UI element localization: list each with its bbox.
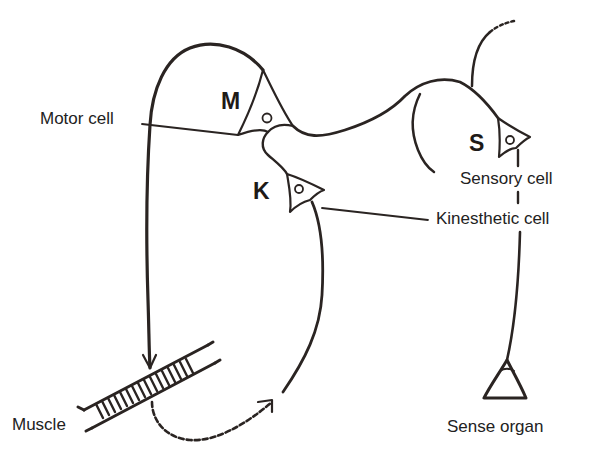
motor-cell-label: Motor cell	[40, 110, 114, 127]
motor-axon-path	[147, 44, 263, 368]
muscle-flange	[78, 407, 84, 410]
motor-cell-body	[238, 70, 293, 135]
kinesthetic-fiber-path	[283, 202, 323, 392]
sensory-dendrite-upper	[472, 32, 490, 86]
muscle-fibers	[96, 359, 193, 418]
muscle-feedback-dashed-path	[152, 402, 272, 440]
neural-circuit-diagram	[0, 0, 592, 462]
sensory-axon-path-lower	[507, 232, 520, 360]
sense-organ-label: Sense organ	[447, 418, 543, 435]
sensory-cell-letter: S	[469, 132, 484, 155]
muscle-flange	[215, 360, 220, 363]
muscle-label: Muscle	[12, 416, 66, 433]
kinesthetic-cell-body	[287, 174, 324, 212]
muscle-flange	[208, 342, 213, 345]
sense-organ-shape	[484, 360, 526, 398]
sensory-dendrite-upper-dotted	[490, 21, 514, 32]
sensory-to-motor-path	[293, 80, 498, 136]
kinesthetic-cell-label: Kinesthetic cell	[436, 210, 549, 227]
kinesthetic-cell-leader-line	[322, 208, 428, 220]
muscle-flange	[86, 428, 92, 431]
sensory-cell-label: Sensory cell	[460, 170, 553, 187]
sensory-dendrite-lower	[413, 94, 434, 172]
kinesthetic-to-motor-path	[263, 132, 287, 174]
kinesthetic-cell-letter: K	[253, 180, 270, 203]
motor-cell-letter: M	[221, 90, 240, 113]
motor-cell-leader-line	[142, 124, 238, 135]
